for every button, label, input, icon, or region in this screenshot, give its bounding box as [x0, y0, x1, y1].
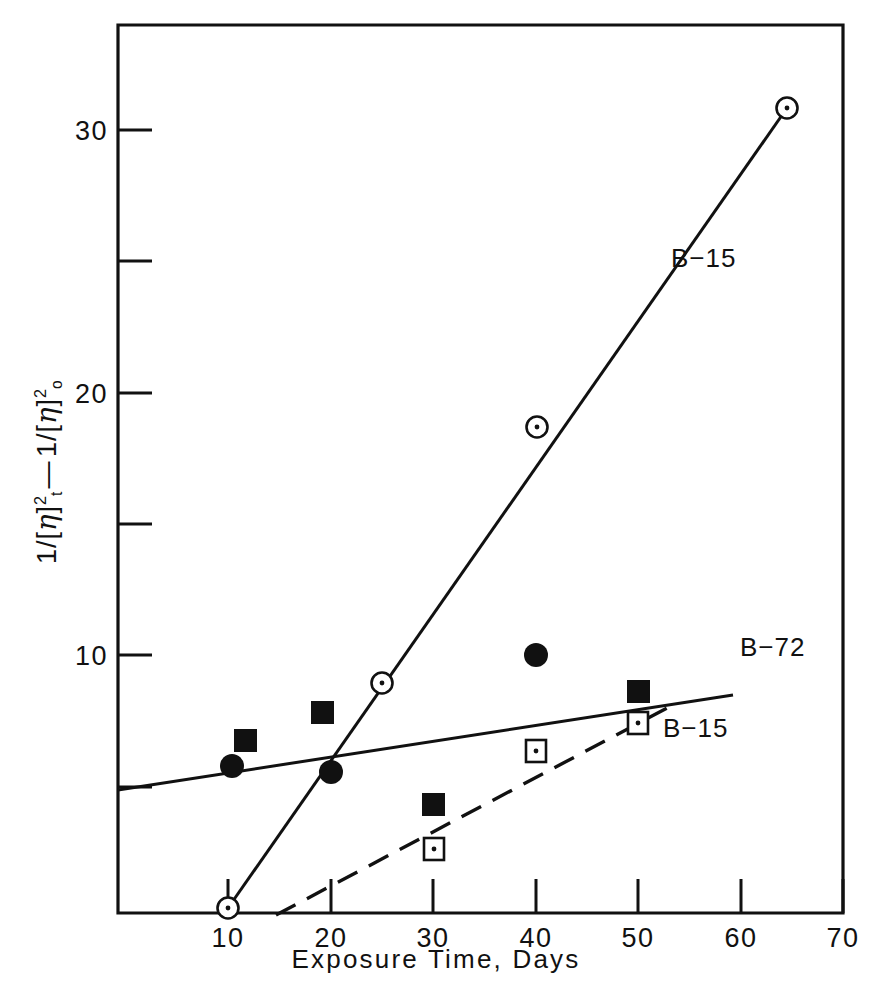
data-point [422, 793, 445, 816]
data-point [234, 729, 257, 752]
markers-filled-circle [220, 643, 548, 784]
data-point [526, 740, 546, 762]
data-point [372, 673, 393, 694]
figure-container: 30 20 10 10 20 30 40 50 60 70 [0, 0, 872, 999]
y-tick-labels: 30 20 10 [75, 116, 108, 671]
y-tick-label-20: 20 [75, 379, 108, 409]
series-label-b72: B−72 [740, 632, 805, 662]
y-axis-title-text: 1/[η]2t — 1/[η]2o [32, 380, 62, 564]
x-axis-ticks [228, 879, 843, 913]
data-point [777, 98, 798, 119]
data-point [220, 754, 244, 778]
x-axis-title: Exposure Time, Days [0, 944, 872, 975]
eta-symbol: η [30, 407, 62, 425]
y-axis-ticks [118, 130, 152, 787]
fit-line-b15-solid [228, 108, 787, 908]
markers-filled-square [234, 680, 650, 816]
data-point [319, 760, 343, 784]
data-point [218, 898, 239, 919]
data-point [311, 701, 334, 724]
series-label-b15-lower: B−15 [663, 713, 728, 743]
eta-symbol: η [30, 514, 62, 532]
data-point [627, 680, 650, 703]
y-tick-label-30: 30 [75, 116, 108, 146]
fit-lines [118, 108, 787, 915]
plot-frame [118, 25, 843, 913]
markers-open-square [424, 712, 648, 860]
fit-line-b72-solid [118, 695, 733, 790]
data-point [527, 417, 548, 438]
data-point [424, 838, 444, 860]
series-annotations: B−15 B−72 B−15 [663, 243, 805, 743]
data-point [628, 712, 648, 734]
scatter-plot: 30 20 10 10 20 30 40 50 60 70 [0, 0, 872, 999]
series-label-b15-upper: B−15 [671, 243, 736, 273]
y-tick-label-10: 10 [75, 641, 108, 671]
data-point [524, 643, 548, 667]
fit-line-b15-dashed [276, 706, 671, 915]
y-axis-title: 1/[η]2t — 1/[η]2o [30, 192, 66, 752]
